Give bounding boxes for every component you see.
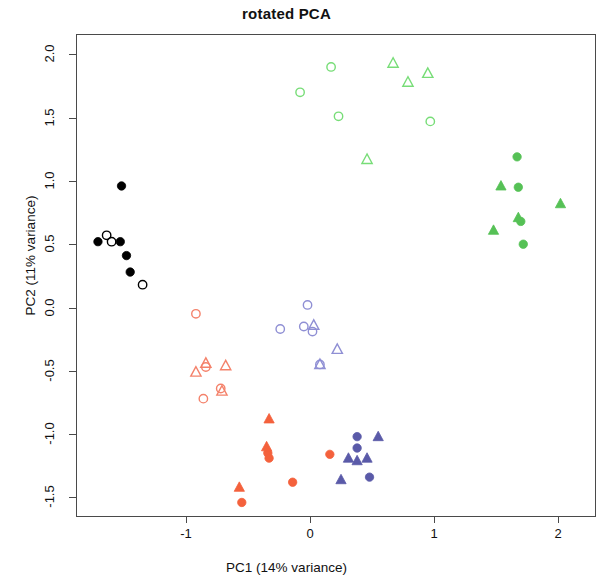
y-axis-tick-label: -1.0 <box>42 414 57 454</box>
plot-frame <box>76 34 596 517</box>
y-axis-tick <box>69 118 76 119</box>
chart-title: rotated PCA <box>0 5 573 22</box>
y-axis-tick-label: 0.5 <box>42 224 57 264</box>
y-axis-label: PC2 (11% variance) <box>23 166 38 346</box>
y-axis-tick-label: 1.5 <box>42 97 57 137</box>
y-axis-tick-label: -0.5 <box>42 350 57 390</box>
y-axis-tick <box>69 244 76 245</box>
y-axis-tick <box>69 497 76 498</box>
x-axis-tick-label: -1 <box>171 526 201 541</box>
y-axis-tick-label: 0.0 <box>42 287 57 327</box>
x-axis-tick <box>558 516 559 523</box>
x-axis-label: PC1 (14% variance) <box>0 560 573 575</box>
x-axis-tick-label: 2 <box>543 526 573 541</box>
x-axis-tick <box>310 516 311 523</box>
x-axis-tick <box>434 516 435 523</box>
x-axis-tick <box>186 516 187 523</box>
y-axis-tick <box>69 371 76 372</box>
y-axis-tick <box>69 54 76 55</box>
y-axis-tick-label: -1.5 <box>42 477 57 517</box>
y-axis-tick <box>69 308 76 309</box>
y-axis-tick-label: 2.0 <box>42 34 57 74</box>
y-axis-tick <box>69 434 76 435</box>
y-axis-tick <box>69 181 76 182</box>
x-axis-tick-label: 0 <box>295 526 325 541</box>
y-axis-tick-label: 1.0 <box>42 160 57 200</box>
x-axis-tick-label: 1 <box>419 526 449 541</box>
